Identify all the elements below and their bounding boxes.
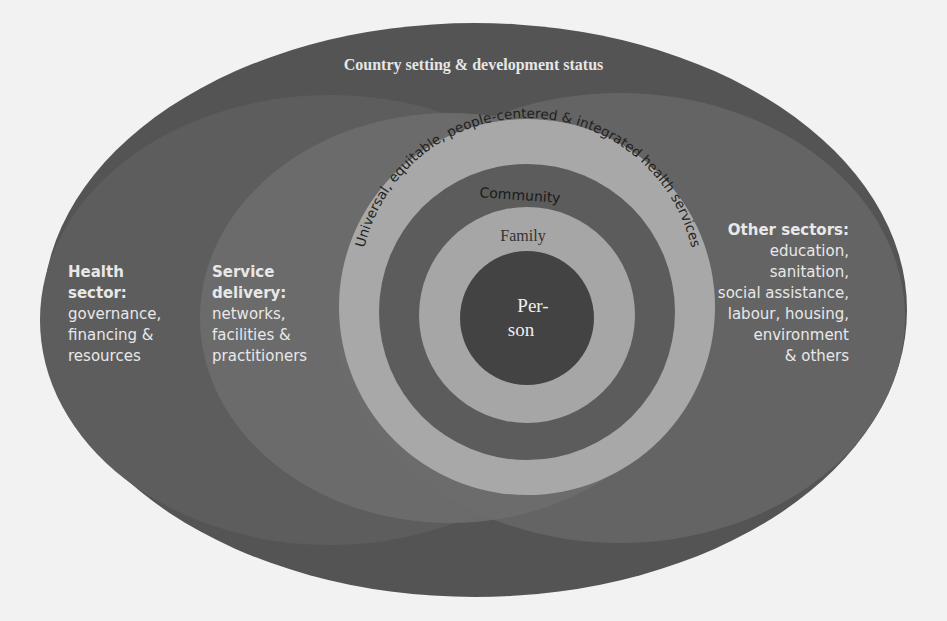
service-delivery-label: Service delivery: networks, facilities &… — [212, 262, 307, 367]
person-label-line1: Per- — [517, 295, 548, 316]
health-sector-line: resources — [68, 346, 161, 367]
service-delivery-heading2: delivery: — [212, 283, 307, 304]
service-delivery-line: facilities & — [212, 325, 307, 346]
other-sectors-line: sanitation, — [718, 262, 849, 283]
service-delivery-line: networks, — [212, 304, 307, 325]
other-sectors-line: education, — [718, 241, 849, 262]
other-sectors-line: environment — [718, 325, 849, 346]
health-sector-line: governance, — [68, 304, 161, 325]
health-sector-line: financing & — [68, 325, 161, 346]
country-setting-title: Country setting & development status — [0, 56, 947, 74]
health-sector-label: Health sector: governance, financing & r… — [68, 262, 161, 367]
health-sector-heading1: Health — [68, 262, 161, 283]
person-label-line2: son — [508, 319, 535, 340]
health-sector-heading2: sector: — [68, 283, 161, 304]
other-sectors-line: labour, housing, — [718, 304, 849, 325]
family-label: Family — [500, 227, 545, 245]
service-delivery-heading1: Service — [212, 262, 307, 283]
other-sectors-heading: Other sectors: — [718, 220, 849, 241]
service-delivery-line: practitioners — [212, 346, 307, 367]
other-sectors-line: social assistance, — [718, 283, 849, 304]
other-sectors-line: & others — [718, 346, 849, 367]
other-sectors-label: Other sectors: education, sanitation, so… — [718, 220, 849, 367]
ring-person — [460, 251, 594, 385]
